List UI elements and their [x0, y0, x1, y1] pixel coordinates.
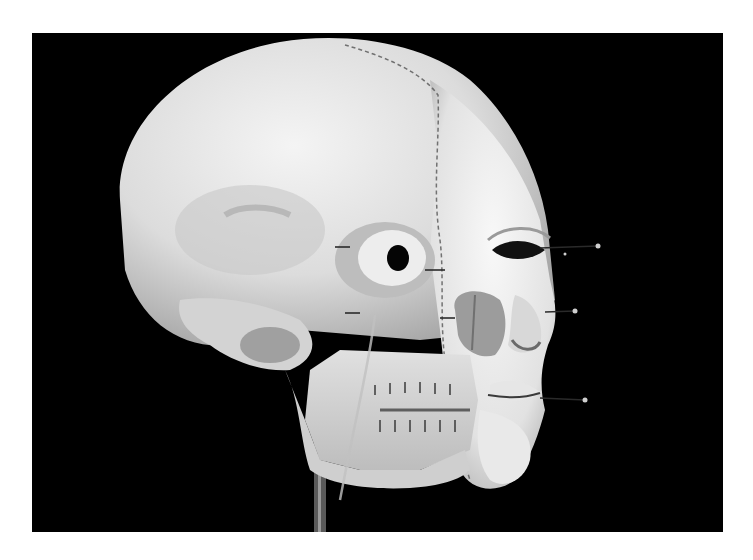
photograph — [32, 33, 723, 532]
pupil — [387, 245, 409, 271]
skull-reconstruction-photo — [32, 33, 723, 532]
